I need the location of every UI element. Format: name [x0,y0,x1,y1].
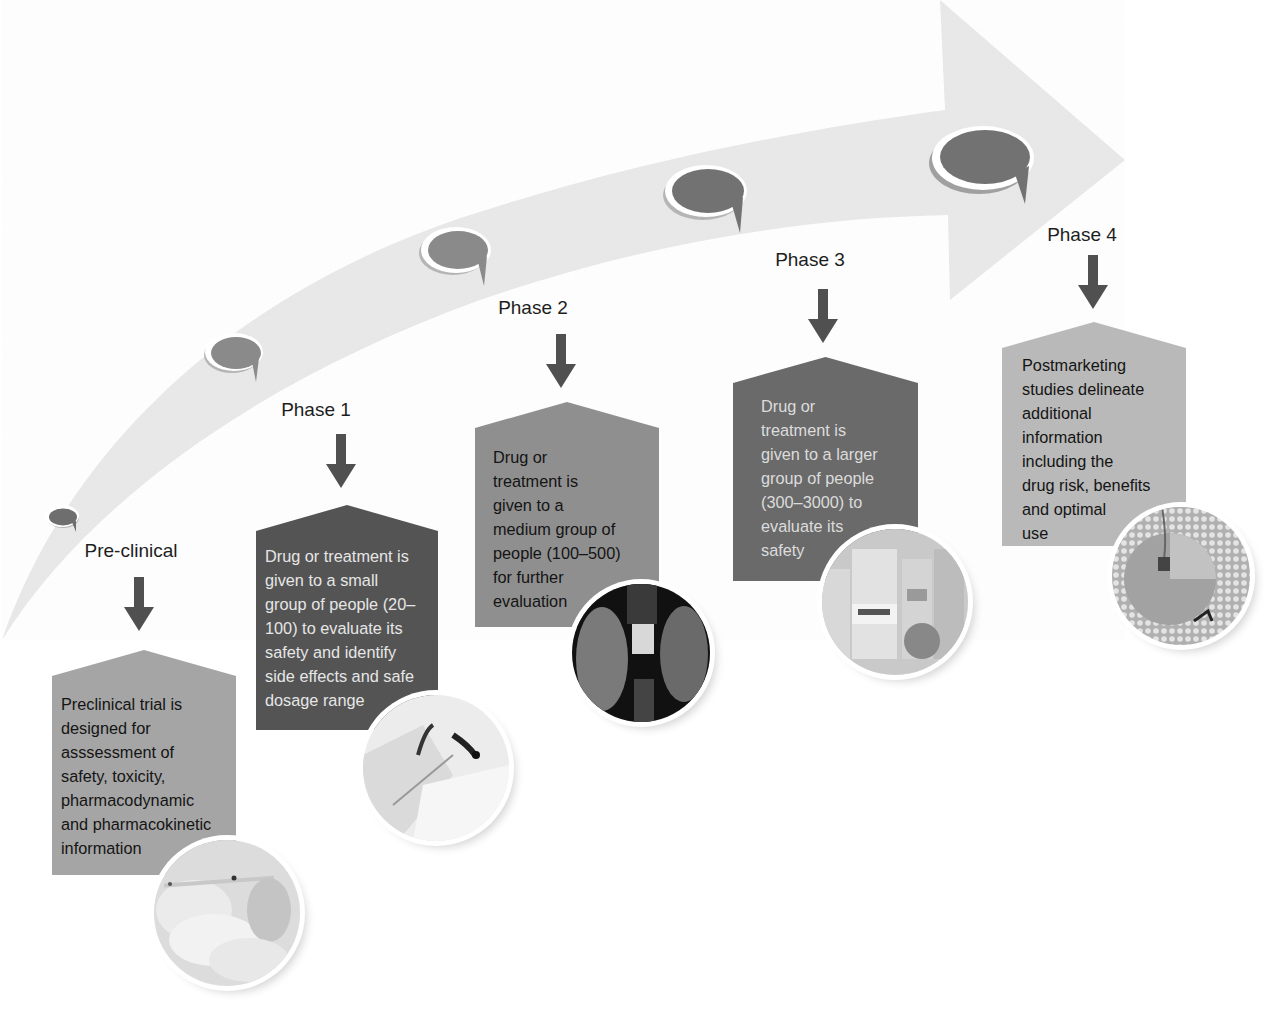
stage-label-phase3: Phase 3 [775,249,845,271]
stage-description-phase4: Postmarketing studies delineate addition… [1022,353,1151,545]
down-arrow-icon [326,434,356,490]
photo-medicine-vials [822,529,968,675]
stage-label-phase2: Phase 2 [498,297,568,319]
photo-vial-and-syringe [572,584,710,722]
down-arrow-icon [808,289,838,345]
down-arrow-icon [124,577,154,633]
stage-label-phase1: Phase 1 [281,399,351,421]
stage-description-phase1: Drug or treatment is given to a small gr… [265,544,415,712]
photo-gloved-hands-syringe [154,840,300,986]
stage-label-phase4: Phase 4 [1047,224,1117,246]
stage-description-preclinical: Preclinical trial is designed for assses… [61,692,211,860]
down-arrow-icon [546,334,576,390]
photo-pill-manufacturing-machine [1112,507,1250,645]
down-arrow-icon [1078,255,1108,311]
stage-label-preclinical: Pre-clinical [85,540,178,562]
photo-patient-examination [363,695,509,841]
stage-description-phase2: Drug or treatment is given to a medium g… [493,445,621,613]
